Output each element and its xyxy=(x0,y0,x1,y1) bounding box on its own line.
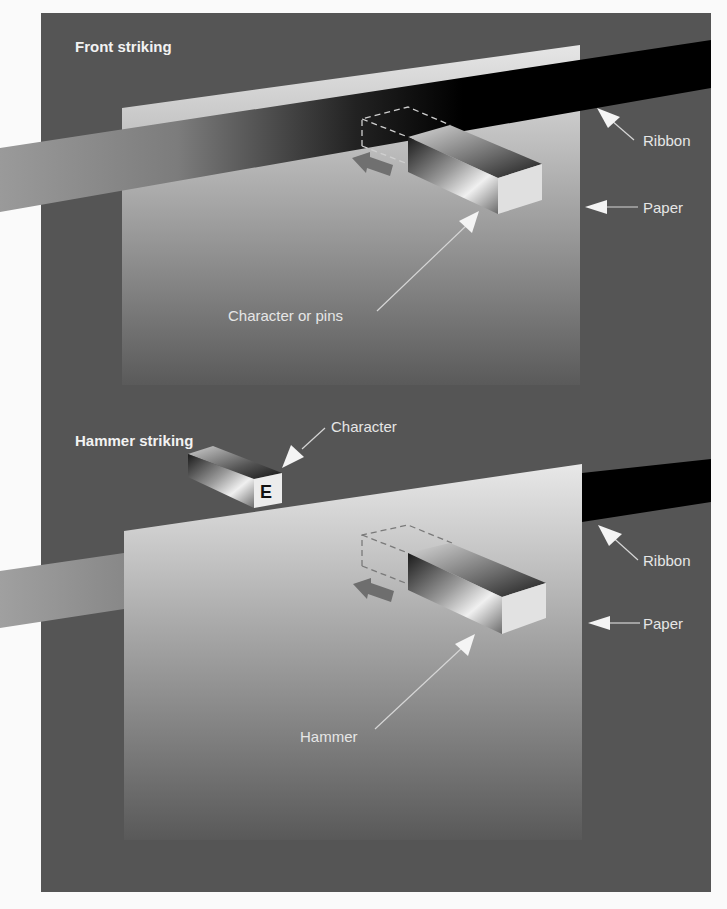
ribbon-strip-right xyxy=(582,459,711,522)
label-ribbon: Ribbon xyxy=(643,552,691,569)
label-paper: Paper xyxy=(643,615,683,632)
label-paper: Paper xyxy=(643,199,683,216)
panel-title-front-striking: Front striking xyxy=(75,38,172,55)
label-ribbon: Ribbon xyxy=(643,132,691,149)
panel-front-striking xyxy=(0,40,711,385)
diagram-artwork xyxy=(0,0,727,909)
panel-title-hammer-striking: Hammer striking xyxy=(75,432,193,449)
ribbon-strip-left xyxy=(0,553,124,628)
character-glyph-e: E xyxy=(260,482,272,503)
label-hammer: Hammer xyxy=(300,728,358,745)
paper-callout-arrow xyxy=(585,200,638,214)
label-character-or-pins: Character or pins xyxy=(228,307,343,324)
paper-sheet xyxy=(124,464,582,840)
character-callout-arrow xyxy=(282,428,325,468)
diagram-stage: Front striking Ribbon Paper Character or… xyxy=(0,0,727,909)
ribbon-callout-arrow xyxy=(598,525,638,560)
ribbon-callout-arrow xyxy=(597,108,634,140)
label-character: Character xyxy=(331,418,397,435)
paper-callout-arrow xyxy=(588,616,640,630)
panel-hammer-striking xyxy=(0,428,711,840)
